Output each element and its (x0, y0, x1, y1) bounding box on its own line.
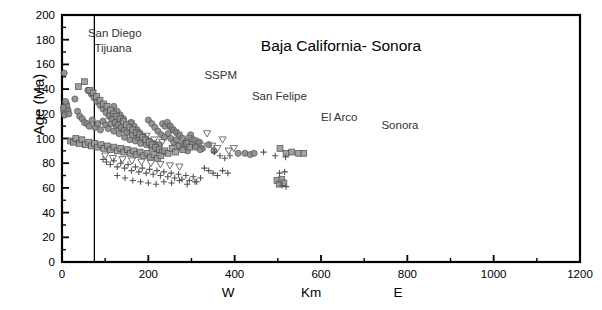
data-point-triangle (128, 158, 135, 164)
data-point-plus (183, 172, 189, 178)
data-point-plus (197, 175, 203, 181)
data-point-plus (122, 175, 128, 181)
data-point-circle (86, 123, 92, 129)
data-point-plus (175, 171, 181, 177)
data-point-plus (132, 164, 138, 170)
data-point-square (76, 84, 82, 90)
y-tick-label: 40 (42, 207, 55, 219)
data-point-circle (89, 117, 95, 123)
data-point-circle (60, 105, 66, 111)
data-point-triangle (176, 164, 183, 170)
data-point-circle (61, 70, 67, 76)
data-point-triangle (219, 137, 226, 143)
data-point-square (173, 149, 179, 155)
data-point-plus (153, 181, 159, 187)
data-point-circle (72, 96, 78, 102)
y-tick-label: 0 (49, 256, 55, 268)
scatter-plot: 0200400600800100012000204060801001201401… (0, 0, 602, 310)
data-point-plus (276, 170, 282, 176)
y-tick-label: 20 (42, 231, 55, 243)
annotation-label: San Diego (88, 27, 142, 39)
data-point-square (301, 150, 307, 156)
annotation-label: San Felipe (252, 90, 307, 102)
data-point-plus (165, 174, 171, 180)
chart-title: Baja California- Sonora (261, 37, 422, 54)
x-tick-label: 1200 (567, 268, 593, 280)
data-point-plus (143, 170, 149, 176)
data-point-plus (150, 171, 156, 177)
data-point-triangle (119, 157, 126, 163)
data-point-circle (62, 98, 68, 104)
data-point-triangle (225, 148, 232, 154)
data-point-plus (114, 172, 120, 178)
x-axis-label-km: Km (301, 285, 321, 300)
data-point-plus (272, 153, 278, 159)
data-point-circle (235, 150, 241, 156)
data-point-plus (161, 179, 167, 185)
data-point-plus (121, 165, 127, 171)
data-point-square (289, 149, 295, 155)
annotation-label: SSPM (204, 69, 237, 81)
y-tick-label: 60 (42, 182, 55, 194)
y-tick-label: 100 (36, 133, 55, 145)
data-point-plus (168, 170, 174, 176)
y-tick-label: 120 (36, 108, 55, 120)
data-point-plus (137, 179, 143, 185)
x-axis-label-east: E (393, 285, 402, 300)
data-point-plus (147, 166, 153, 172)
chart-container: Age (Ma) 0200400600800100012000204060801… (0, 0, 602, 310)
data-point-triangle (166, 163, 173, 169)
x-tick-label: 1000 (481, 268, 507, 280)
data-point-plus (154, 168, 160, 174)
data-point-triangle (138, 159, 145, 165)
x-tick-label: 200 (139, 268, 158, 280)
data-point-plus (130, 177, 136, 183)
x-tick-label: 800 (398, 268, 417, 280)
data-point-triangle (157, 162, 164, 168)
data-point-plus (157, 172, 163, 178)
x-tick-label: 400 (225, 268, 244, 280)
data-point-plus (260, 149, 266, 155)
data-point-plus (136, 169, 142, 175)
y-tick-label: 80 (42, 157, 55, 169)
annotation-label: Tijuana (94, 42, 132, 54)
x-axis-label-west: W (222, 285, 235, 300)
annotation-label: Sonora (381, 119, 419, 131)
y-tick-label: 200 (36, 9, 55, 21)
data-point-circle (97, 127, 103, 133)
data-point-plus (139, 165, 145, 171)
data-point-triangle (203, 131, 210, 137)
data-point-circle (197, 147, 203, 153)
data-point-plus (161, 169, 167, 175)
data-point-circle (66, 111, 72, 117)
annotation-label: El Arco (321, 111, 357, 123)
data-point-plus (128, 168, 134, 174)
data-point-plus (125, 161, 131, 167)
data-point-plus (114, 164, 120, 170)
data-point-circle (251, 150, 257, 156)
y-tick-label: 180 (36, 34, 55, 46)
y-tick-label: 140 (36, 83, 55, 95)
data-points (60, 70, 306, 190)
data-point-square (82, 79, 88, 85)
x-tick-label: 600 (311, 268, 330, 280)
y-tick-label: 160 (36, 58, 55, 70)
data-point-plus (145, 180, 151, 186)
data-point-plus (118, 160, 124, 166)
x-tick-label: 0 (59, 268, 65, 280)
data-point-square (277, 145, 283, 151)
data-point-plus (169, 180, 175, 186)
data-point-triangle (147, 160, 154, 166)
data-point-plus (282, 169, 288, 175)
